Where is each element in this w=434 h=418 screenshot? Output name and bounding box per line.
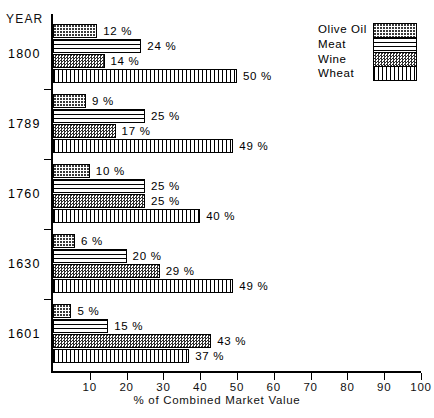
bar-value-label: 25 %: [151, 195, 180, 207]
legend-label-wheat: Wheat: [318, 67, 367, 81]
bar-wheat: [53, 69, 237, 83]
bar-wheat: [53, 209, 200, 223]
bar-wine: [53, 334, 211, 348]
bar-meat: [53, 179, 145, 193]
legend-swatches: [373, 23, 417, 81]
bar-wine: [53, 54, 105, 68]
year-label-1630: 1630: [8, 257, 41, 271]
group-separator: [44, 89, 52, 90]
bar-value-label: 24 %: [147, 40, 176, 52]
bar-olive-oil: [53, 304, 71, 318]
bar-value-label: 9 %: [92, 95, 114, 107]
legend-swatch-wheat: [374, 67, 416, 80]
legend-swatch-olive-oil: [374, 24, 416, 38]
bar-meat: [53, 39, 141, 53]
bar-meat: [53, 109, 145, 123]
legend-labels: Olive OilMeatWineWheat: [318, 23, 373, 81]
bar-value-label: 5 %: [77, 305, 99, 317]
x-axis-tick-label: 50: [230, 381, 244, 393]
x-axis-tick: [163, 373, 164, 380]
bar-value-label: 6 %: [81, 235, 103, 247]
bar-olive-oil: [53, 164, 90, 178]
x-axis-tick: [90, 373, 91, 380]
bar-value-label: 37 %: [195, 350, 224, 362]
legend-label-meat: Meat: [318, 38, 367, 52]
bar-value-label: 40 %: [206, 210, 235, 222]
bar-wine: [53, 264, 160, 278]
group-separator: [44, 299, 52, 300]
bar-value-label: 49 %: [239, 140, 268, 152]
x-axis-tick-label: 40: [193, 381, 207, 393]
bar-wheat: [53, 349, 189, 363]
legend-label-wine: Wine: [318, 53, 367, 67]
bar-value-label: 49 %: [239, 280, 268, 292]
bar-value-label: 12 %: [103, 25, 132, 37]
x-axis-tick-label: 20: [119, 381, 133, 393]
x-axis-tick-label: 60: [267, 381, 281, 393]
bar-value-label: 43 %: [217, 335, 246, 347]
x-axis-tick: [274, 373, 275, 380]
x-axis-tick-label: 70: [303, 381, 317, 393]
x-axis-tick-label: 10: [83, 381, 97, 393]
bar-olive-oil: [53, 234, 75, 248]
x-axis-tick: [237, 373, 238, 380]
bar-value-label: 50 %: [243, 70, 272, 82]
bar-value-label: 20 %: [133, 250, 162, 262]
bar-wheat: [53, 139, 233, 153]
x-axis-tick-label: 100: [410, 381, 432, 393]
bar-value-label: 14 %: [111, 55, 140, 67]
bar-value-label: 29 %: [166, 265, 195, 277]
legend-swatch-wine: [374, 53, 416, 67]
x-axis-tick: [200, 373, 201, 380]
bar-meat: [53, 319, 108, 333]
x-axis-tick: [384, 373, 385, 380]
group-separator: [44, 159, 52, 160]
bar-olive-oil: [53, 94, 86, 108]
x-axis-tick: [347, 373, 348, 380]
year-label-1800: 1800: [8, 47, 41, 61]
legend: Olive OilMeatWineWheat: [318, 23, 417, 81]
bar-value-label: 15 %: [114, 320, 143, 332]
bar-value-label: 10 %: [96, 165, 125, 177]
y-axis-title: YEAR: [6, 12, 43, 26]
bar-meat: [53, 249, 127, 263]
bar-wine: [53, 124, 116, 138]
bar-wine: [53, 194, 145, 208]
x-axis-tick: [127, 373, 128, 380]
bar-olive-oil: [53, 24, 97, 38]
x-axis-tick-label: 30: [156, 381, 170, 393]
bar-chart: YEAR 102030405060708090100 1800178917601…: [0, 0, 434, 418]
year-label-1789: 1789: [8, 117, 41, 131]
legend-swatch-meat: [374, 38, 416, 52]
bar-value-label: 25 %: [151, 180, 180, 192]
year-label-1601: 1601: [8, 327, 41, 341]
x-axis-tick-label: 80: [340, 381, 354, 393]
x-axis-tick: [421, 373, 422, 380]
bar-wheat: [53, 279, 233, 293]
bar-value-label: 25 %: [151, 110, 180, 122]
x-axis-title: % of Combined Market Value: [0, 394, 434, 406]
legend-label-olive-oil: Olive Oil: [318, 23, 367, 37]
x-axis-line: [51, 371, 421, 373]
x-axis-tick-label: 90: [377, 381, 391, 393]
year-label-1760: 1760: [8, 187, 41, 201]
x-axis-tick: [311, 373, 312, 380]
bar-value-label: 17 %: [122, 125, 151, 137]
group-separator: [44, 229, 52, 230]
